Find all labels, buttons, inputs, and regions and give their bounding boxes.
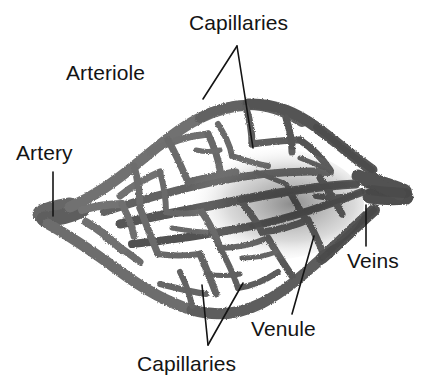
label-artery: Artery: [16, 141, 73, 165]
leader-capillaries-top-left: [203, 46, 237, 99]
label-veins: Veins: [347, 249, 399, 273]
label-capillaries-top: Capillaries: [189, 11, 288, 35]
leader-capillaries-bottom-left: [202, 285, 208, 345]
label-venule: Venule: [251, 317, 316, 341]
leader-lines: [0, 0, 421, 382]
label-capillaries-bottom: Capillaries: [137, 352, 236, 376]
leader-capillaries-top-right: [237, 46, 253, 148]
leader-venule: [292, 236, 314, 314]
capillary-bed-figure: Capillaries Arteriole Artery Veins Venul…: [0, 0, 421, 382]
label-arteriole: Arteriole: [66, 61, 145, 85]
leader-capillaries-bottom-right: [208, 283, 243, 345]
